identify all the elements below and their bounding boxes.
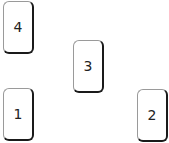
card-number: 2	[148, 108, 157, 122]
card-4[interactable]: 4	[3, 1, 34, 54]
card-1[interactable]: 1	[3, 88, 34, 141]
card-number: 1	[14, 107, 23, 121]
card-3[interactable]: 3	[73, 40, 104, 93]
card-number: 3	[84, 59, 93, 73]
card-number: 4	[14, 20, 23, 34]
card-2[interactable]: 2	[137, 89, 168, 142]
